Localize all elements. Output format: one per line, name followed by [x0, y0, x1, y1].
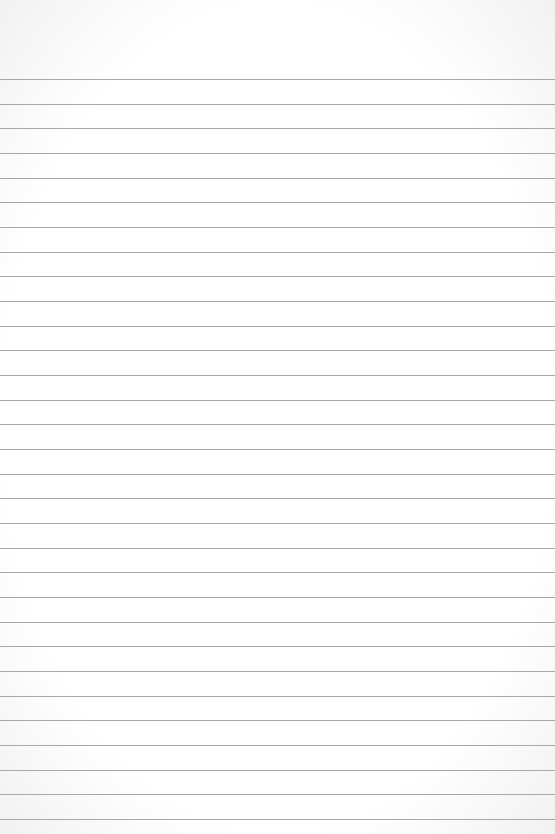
ruled-line	[0, 276, 555, 277]
ruled-line	[0, 104, 555, 105]
ruled-line	[0, 572, 555, 573]
ruled-line	[0, 794, 555, 795]
ruled-line	[0, 153, 555, 154]
ruled-line	[0, 350, 555, 351]
ruled-line	[0, 819, 555, 820]
ruled-line	[0, 548, 555, 549]
ruled-line	[0, 227, 555, 228]
ruled-line	[0, 400, 555, 401]
ruled-line	[0, 301, 555, 302]
ruled-line	[0, 498, 555, 499]
ruled-line	[0, 178, 555, 179]
ruled-line	[0, 449, 555, 450]
ruled-line	[0, 375, 555, 376]
ruled-line	[0, 128, 555, 129]
ruled-line	[0, 720, 555, 721]
ruled-line	[0, 696, 555, 697]
ruled-line	[0, 597, 555, 598]
ruled-line	[0, 474, 555, 475]
ruled-line	[0, 770, 555, 771]
ruled-line	[0, 79, 555, 80]
ruled-line	[0, 523, 555, 524]
lined-paper-sheet	[0, 0, 555, 834]
ruled-line	[0, 622, 555, 623]
ruled-line	[0, 745, 555, 746]
ruled-line	[0, 326, 555, 327]
ruled-line	[0, 202, 555, 203]
ruled-line	[0, 424, 555, 425]
ruled-line	[0, 252, 555, 253]
ruled-line	[0, 671, 555, 672]
ruled-line	[0, 646, 555, 647]
